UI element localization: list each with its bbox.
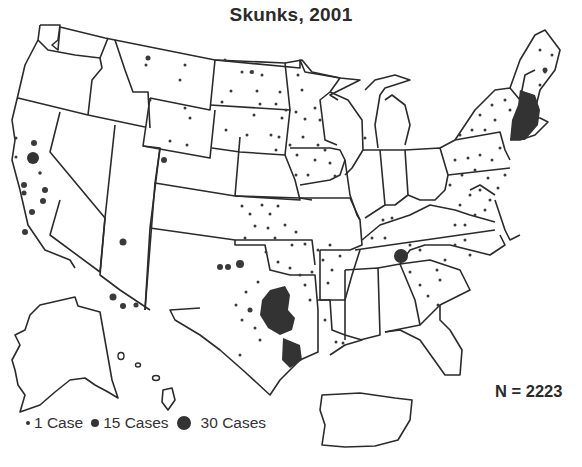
hawaii-outline xyxy=(118,353,175,411)
legend-label: 1 Case xyxy=(34,414,83,432)
legend-item-1-case: 1 Case xyxy=(26,414,83,432)
total-count: N = 2223 xyxy=(495,382,562,401)
legend-item-30-cases: 30 Cases xyxy=(177,414,266,432)
medium-dot-icon xyxy=(91,419,99,427)
puerto-rico-outline xyxy=(320,393,412,447)
alaska-outline xyxy=(12,297,118,412)
legend-label: 30 Cases xyxy=(201,414,266,432)
small-dot-icon xyxy=(26,421,30,425)
legend-label: 15 Cases xyxy=(103,414,168,432)
legend-item-15-cases: 15 Cases xyxy=(91,414,168,432)
large-dot-icon xyxy=(177,416,191,430)
map-legend: 1 Case 15 Cases 30 Cases xyxy=(26,414,274,432)
